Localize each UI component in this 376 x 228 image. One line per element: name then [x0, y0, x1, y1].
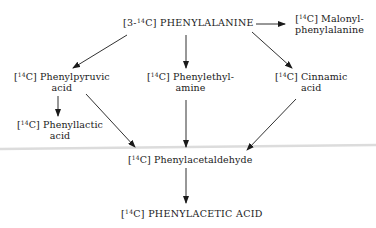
label-line2: amine [176, 82, 206, 93]
label-text: C] Phenylacetaldehyde [140, 154, 253, 165]
node-phenylacetic-acid: [14C] PHENYLACETIC ACID [121, 208, 263, 219]
label-text: C] Phenyllactic [29, 119, 103, 130]
isotope-superscript: 14 [151, 71, 159, 78]
label-line2: acid [52, 82, 73, 93]
node-phenyllactic-acid: [14C] Phenyllactic acid [17, 119, 103, 141]
label-line2: acid [50, 130, 71, 141]
label-text: C] Phenylethyl- [159, 71, 234, 82]
arrow-cinnamic-to-phenylacetaldehyde [247, 99, 296, 150]
node-cinnamic-acid: [14C] Cinnamic acid [275, 71, 347, 93]
node-malonylphenylalanine: [14C] Malonyl- phenylalanine [295, 13, 364, 35]
arrow-phenylalanine-to-cinnamic [252, 32, 292, 68]
isotope-superscript: 14 [299, 13, 307, 20]
label-text: C] PHENYLACETIC ACID [133, 208, 262, 219]
arrow-phenylalanine-to-phenylpyruvic [73, 35, 127, 68]
label-line2: phenylalanine [295, 24, 364, 35]
label-text: C] Cinnamic [287, 71, 348, 82]
node-phenylacetaldehyde: [14C] Phenylacetaldehyde [128, 154, 252, 165]
node-phenylethylamine: [14C] Phenylethyl- amine [147, 71, 234, 93]
label-line2: acid [301, 82, 322, 93]
label-text: C] Phenylpyruvic [26, 71, 110, 82]
label-text: C] PHENYLALANINE [145, 17, 254, 28]
isotope-superscript: 14 [279, 71, 287, 78]
isotope-superscript: 14 [18, 71, 26, 78]
node-phenylpyruvic-acid: [14C] Phenylpyruvic acid [14, 71, 110, 93]
label-prefix: [3- [123, 17, 137, 28]
node-phenylalanine: [3-14C] PHENYLALANINE [123, 17, 254, 28]
isotope-superscript: 14 [137, 17, 145, 24]
isotope-superscript: 14 [132, 154, 140, 161]
isotope-superscript: 14 [21, 119, 29, 126]
label-text: C] Malonyl- [307, 13, 364, 24]
